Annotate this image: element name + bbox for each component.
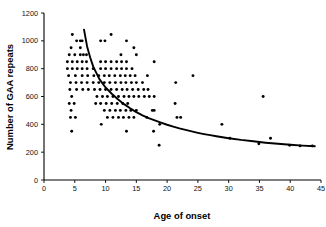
data-point bbox=[135, 81, 138, 84]
data-point bbox=[103, 39, 106, 42]
data-point bbox=[117, 95, 120, 98]
data-point bbox=[128, 95, 131, 98]
data-point bbox=[153, 95, 156, 98]
data-point bbox=[76, 67, 79, 70]
data-point bbox=[99, 60, 102, 63]
y-tick-label: 400 bbox=[26, 120, 38, 129]
data-point bbox=[104, 60, 107, 63]
data-point bbox=[87, 88, 90, 91]
data-point bbox=[79, 39, 82, 42]
x-tick-label: 30 bbox=[225, 184, 233, 193]
data-point bbox=[73, 102, 76, 105]
data-point bbox=[85, 60, 88, 63]
data-point bbox=[70, 46, 73, 49]
x-axis-title: Age of onset bbox=[154, 210, 211, 221]
x-axis-ticks: 051015202530354045 bbox=[42, 180, 325, 193]
data-point bbox=[134, 74, 137, 77]
data-point bbox=[66, 67, 69, 70]
data-point bbox=[70, 95, 73, 98]
data-point bbox=[123, 95, 126, 98]
data-point bbox=[100, 123, 103, 126]
data-point bbox=[99, 88, 102, 91]
data-point bbox=[115, 67, 118, 70]
data-point bbox=[103, 109, 106, 112]
data-point bbox=[174, 102, 177, 105]
data-point bbox=[68, 88, 71, 91]
data-point bbox=[153, 60, 156, 63]
data-point bbox=[69, 116, 72, 119]
y-tick-label: 1200 bbox=[22, 9, 38, 18]
plot-canvas: 020040060080010001200 051015202530354045… bbox=[0, 0, 326, 227]
data-point bbox=[126, 88, 129, 91]
data-point bbox=[70, 130, 73, 133]
data-point bbox=[119, 74, 122, 77]
data-point bbox=[119, 53, 122, 56]
y-tick-label: 1000 bbox=[22, 36, 38, 45]
data-point bbox=[111, 116, 114, 119]
data-point bbox=[125, 60, 128, 63]
data-point bbox=[110, 60, 113, 63]
data-point bbox=[81, 60, 84, 63]
x-tick-label: 35 bbox=[255, 184, 263, 193]
x-tick-label: 25 bbox=[194, 184, 202, 193]
data-point bbox=[108, 109, 111, 112]
data-point bbox=[73, 53, 76, 56]
x-tick-label: 40 bbox=[286, 184, 294, 193]
data-point bbox=[75, 39, 78, 42]
data-point bbox=[122, 116, 125, 119]
data-point bbox=[141, 81, 144, 84]
data-point bbox=[94, 102, 97, 105]
data-point bbox=[71, 33, 74, 36]
data-point bbox=[119, 81, 122, 84]
data-point bbox=[125, 130, 128, 133]
data-point bbox=[125, 67, 128, 70]
data-point bbox=[76, 60, 79, 63]
data-point bbox=[80, 81, 83, 84]
y-tick-label: 600 bbox=[26, 92, 38, 101]
data-point bbox=[114, 81, 117, 84]
data-point bbox=[176, 116, 179, 119]
data-point bbox=[108, 74, 111, 77]
data-point bbox=[124, 81, 127, 84]
data-point bbox=[115, 60, 118, 63]
data-point bbox=[95, 95, 98, 98]
data-point bbox=[137, 88, 140, 91]
data-point bbox=[113, 74, 116, 77]
data-point bbox=[106, 95, 109, 98]
data-point bbox=[137, 95, 140, 98]
data-point bbox=[104, 67, 107, 70]
fitted-curve bbox=[84, 30, 315, 147]
data-point bbox=[71, 60, 74, 63]
data-point bbox=[132, 95, 135, 98]
x-tick-label: 5 bbox=[73, 184, 77, 193]
x-tick-label: 20 bbox=[163, 184, 171, 193]
y-tick-label: 0 bbox=[34, 176, 38, 185]
data-point bbox=[101, 95, 104, 98]
data-point bbox=[135, 53, 138, 56]
data-point bbox=[81, 67, 84, 70]
data-point bbox=[126, 102, 129, 105]
data-point bbox=[121, 88, 124, 91]
data-point bbox=[120, 60, 123, 63]
data-point bbox=[92, 81, 95, 84]
data-point bbox=[192, 74, 195, 77]
data-point bbox=[117, 116, 120, 119]
data-point bbox=[86, 81, 89, 84]
data-point bbox=[124, 74, 127, 77]
data-point bbox=[110, 102, 113, 105]
data-point bbox=[120, 67, 123, 70]
y-tick-label: 800 bbox=[26, 64, 38, 73]
data-point bbox=[152, 130, 155, 133]
data-point bbox=[146, 74, 149, 77]
data-point bbox=[79, 53, 82, 56]
data-point bbox=[69, 81, 72, 84]
data-point bbox=[158, 144, 161, 147]
data-point bbox=[70, 109, 73, 112]
data-point bbox=[220, 123, 223, 126]
data-point bbox=[269, 137, 272, 140]
data-point bbox=[68, 102, 71, 105]
data-point bbox=[86, 67, 89, 70]
data-point bbox=[132, 116, 135, 119]
data-point bbox=[85, 53, 88, 56]
data-point bbox=[115, 88, 118, 91]
